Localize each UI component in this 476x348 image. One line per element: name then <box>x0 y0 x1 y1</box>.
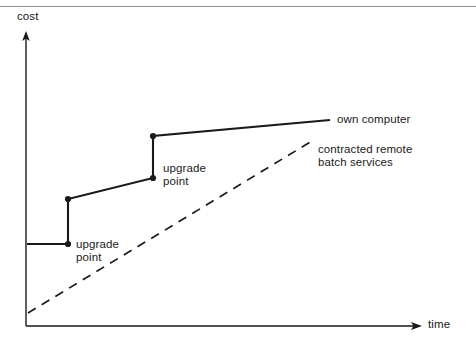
axes-group <box>22 31 422 330</box>
own-computer-label: own computer <box>337 113 410 126</box>
upgrade-point-2-label-line1: upgrade <box>163 162 206 174</box>
contracted-remote-label-line1: contracted remote <box>318 143 412 155</box>
upgrade-point-2-lower-marker <box>150 175 156 181</box>
upgrade-point-1-lower-marker <box>65 241 71 247</box>
contracted-remote-label: contracted remotebatch services <box>318 143 412 168</box>
upgrade-point-1-upper-marker <box>65 196 71 202</box>
x-axis-label: time <box>428 318 450 331</box>
upgrade-point-1-label-line1: upgrade <box>76 238 119 250</box>
cost-vs-time-chart <box>0 0 476 348</box>
upgrade-point-2-label-line2: point <box>163 175 188 187</box>
upgrade-point-1-label-line2: point <box>76 251 101 263</box>
upgrade-point-1-label: upgradepoint <box>76 238 119 263</box>
contracted-remote-label-line2: batch services <box>318 156 393 168</box>
upgrade-point-2-upper-marker <box>150 133 156 139</box>
y-axis-label: cost <box>17 10 39 23</box>
figure-canvas: cost time own computer contracted remote… <box>0 0 476 348</box>
upgrade-point-2-label: upgradepoint <box>163 162 206 187</box>
